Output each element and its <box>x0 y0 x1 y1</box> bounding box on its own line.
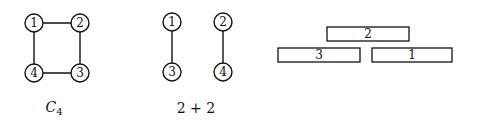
two-plus-two-node-1: 1 <box>163 13 181 31</box>
caption-main: C <box>45 99 56 115</box>
c4-node-4: 4 <box>25 64 43 82</box>
c4-node-2: 2 <box>71 14 89 32</box>
interval-label: 3 <box>315 48 323 62</box>
node-label: 3 <box>76 66 84 80</box>
node-label: 1 <box>168 15 176 29</box>
interval-1: 1 <box>372 48 452 62</box>
two-plus-two-node-3: 3 <box>163 63 181 81</box>
interval-2: 2 <box>327 27 409 41</box>
node-label: 4 <box>219 65 227 79</box>
c4-graph: 1 2 3 4 C4 <box>25 14 89 117</box>
c4-caption: C4 <box>45 99 62 117</box>
two-plus-two-caption: 2 + 2 <box>177 100 215 116</box>
c4-node-1: 1 <box>25 14 43 32</box>
node-label: 2 <box>219 15 227 29</box>
two-plus-two-node-4: 4 <box>214 63 232 81</box>
node-label: 2 <box>76 16 84 30</box>
node-label: 4 <box>30 66 38 80</box>
node-label: 3 <box>168 65 176 79</box>
diagram-canvas: 1 2 3 4 C4 1 2 3 <box>0 0 477 126</box>
interval-representation: 2 3 1 <box>278 27 452 62</box>
two-plus-two-graph: 1 2 3 4 2 + 2 <box>163 13 232 116</box>
interval-label: 1 <box>408 48 416 62</box>
interval-3: 3 <box>278 48 360 62</box>
c4-node-3: 3 <box>71 64 89 82</box>
interval-label: 2 <box>364 27 372 41</box>
node-label: 1 <box>30 16 38 30</box>
two-plus-two-node-2: 2 <box>214 13 232 31</box>
caption-subscript: 4 <box>56 106 62 117</box>
